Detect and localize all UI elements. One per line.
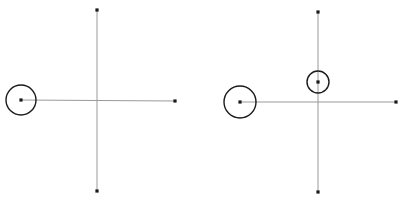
left-point — [238, 100, 241, 103]
right-point — [173, 99, 176, 102]
left-figure — [6, 8, 177, 192]
inner-point — [316, 80, 319, 83]
bottom-point — [95, 189, 98, 192]
diagram-canvas — [0, 0, 403, 198]
top-point — [95, 8, 98, 11]
left-point — [19, 98, 22, 101]
bottom-point — [316, 190, 319, 193]
top-point — [316, 10, 319, 13]
diagram-svg — [0, 0, 403, 198]
horizontal-axis-line — [21, 100, 175, 101]
right-point — [394, 100, 397, 103]
right-figure — [224, 10, 398, 193]
